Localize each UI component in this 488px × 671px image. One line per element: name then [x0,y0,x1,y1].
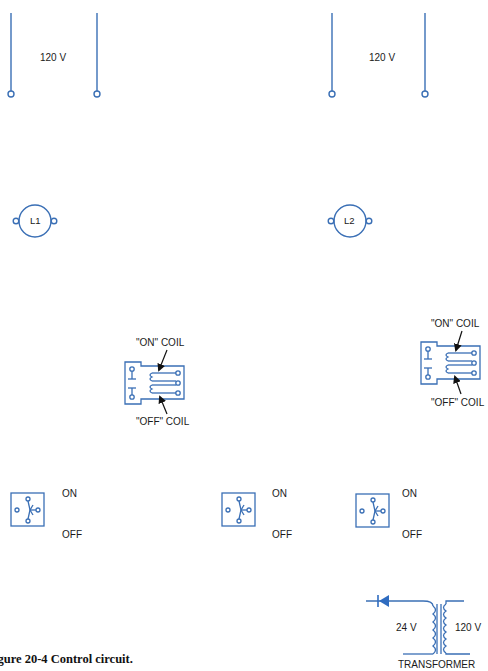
relay-right-on-coil-label: "ON" COIL [431,318,479,329]
transformer-name-label: TRANSFORMER [398,659,475,670]
switch-2-off-label: OFF [272,529,292,540]
figure-caption: igure 20-4 Control circuit. [0,652,133,667]
switch-3-on-label: ON [402,488,417,499]
switch-3-off-label: OFF [402,529,422,540]
switch-1-on-label: ON [62,488,77,499]
switch-2-on-label: ON [272,488,287,499]
switch-3-symbol [356,494,389,527]
relay-left-on-coil-label: "ON" COIL [136,337,184,348]
relay-right-off-coil-label: "OFF" COIL [431,397,484,408]
relay-left-off-coil-label: "OFF" COIL [136,416,189,427]
transformer-secondary-label: 120 V [455,622,481,633]
switch-1-off-label: OFF [62,529,82,540]
switch-2-symbol [222,493,255,526]
transformer-primary-label: 24 V [396,622,417,633]
lamp-l2-label: L2 [344,215,355,226]
circuit-diagram [0,0,488,671]
switch-1-symbol [11,493,44,526]
source-left-voltage-label: 120 V [40,52,66,63]
relay-right-symbol [421,342,480,384]
lamp-l1-label: L1 [30,215,41,226]
relay-left-symbol [125,362,184,404]
diode-symbol [366,595,423,607]
source-right-voltage-label: 120 V [369,52,395,63]
